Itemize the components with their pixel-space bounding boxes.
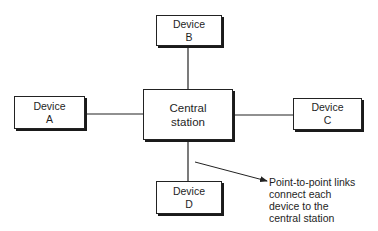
device-c-label-line1: Device [311, 101, 343, 114]
annotation-line-4: central station [269, 212, 355, 224]
device-b-box: Device B [156, 15, 222, 46]
annotation-text: Point-to-point links connect each device… [269, 176, 355, 224]
device-d-box: Device D [156, 181, 222, 214]
device-a-box: Device A [14, 96, 85, 129]
device-a-label-line1: Device [33, 100, 65, 113]
device-d-label-line1: Device [173, 185, 205, 198]
device-b-label-line1: Device [173, 18, 205, 31]
annotation-line-1: Point-to-point links [269, 176, 355, 188]
device-a-label-line2: A [46, 113, 53, 126]
central-label-line2: station [171, 115, 205, 129]
device-b-label-line2: B [185, 31, 192, 44]
device-c-label-line2: C [324, 114, 332, 127]
annotation-line-2: connect each [269, 188, 355, 200]
central-label-line1: Central [169, 101, 206, 115]
star-topology-diagram: Device B Device A Central station Device… [0, 0, 378, 231]
device-c-box: Device C [293, 98, 362, 130]
annotation-line-3: device to the [269, 200, 355, 212]
device-d-label-line2: D [185, 198, 193, 211]
annotation-arrow [195, 162, 267, 181]
central-station-box: Central station [143, 89, 233, 140]
